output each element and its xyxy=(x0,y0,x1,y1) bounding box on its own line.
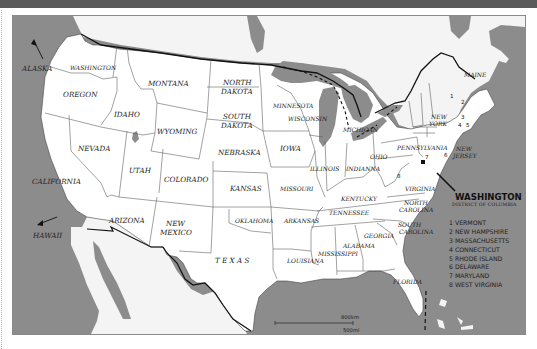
label-new-york-1: NEW xyxy=(430,113,448,120)
label-north-carolina-1: NORTH xyxy=(403,199,429,206)
page-edge-divider xyxy=(1,10,2,349)
header-bar xyxy=(0,0,537,8)
label-new-jersey-2: JERSEY xyxy=(451,152,478,160)
label-missouri: MISSOURI xyxy=(279,185,314,192)
label-alaska: ALASKA xyxy=(21,64,52,73)
label-wyoming: WYOMING xyxy=(157,127,198,136)
marker-5-rhode-island: 5 xyxy=(466,122,470,128)
legend-item-3: 3 MASSACHUSETTS xyxy=(449,237,509,244)
label-ohio: OHIO xyxy=(370,153,388,160)
label-kansas: KANSAS xyxy=(229,184,262,193)
label-montana: MONTANA xyxy=(147,79,189,88)
label-illinois: ILLINOIS xyxy=(309,165,339,172)
capital-title: WASHINGTON xyxy=(455,192,522,202)
label-iowa: IOWA xyxy=(279,144,301,153)
label-indiana: INDIANNA xyxy=(345,165,381,172)
label-colorado: COLORADO xyxy=(164,175,208,184)
label-north-dakota-1: NORTH xyxy=(222,78,252,87)
label-nevada: NEVADA xyxy=(77,144,110,153)
marker-4-connecticut: 4 xyxy=(458,122,462,128)
label-oklahoma: OKLAHOMA xyxy=(235,217,274,224)
label-utah: UTAH xyxy=(129,166,152,175)
map-canvas: ALASKA HAWAII WASHINGTON OREGON CALIFORN… xyxy=(13,16,525,334)
marker-2-new-hampshire: 2 xyxy=(461,99,465,105)
label-michigan: MICHIGAN xyxy=(342,126,379,133)
label-idaho: IDAHO xyxy=(113,110,140,119)
label-maine: MAINE xyxy=(463,71,487,78)
label-new-mexico-2: MEXICO xyxy=(159,228,192,237)
label-wisconsin: WISCONSIN xyxy=(288,115,328,122)
label-pennsylvania: PENNSYLVANIA xyxy=(396,144,448,151)
label-mississippi: MISSISSIPPI xyxy=(317,250,359,257)
label-georgia: GEORGIA xyxy=(364,232,395,239)
label-arkansas: ARKANSAS xyxy=(283,217,319,224)
label-alabama: ALABAMA xyxy=(342,242,376,249)
legend-item-6: 6 DELAWARE xyxy=(449,263,489,270)
label-south-dakota-1: SOUTH xyxy=(223,112,252,121)
label-louisiana: LOUISIANA xyxy=(286,257,324,264)
label-new-york-2: YORK xyxy=(429,120,447,127)
label-south-carolina-1: SOUTH xyxy=(398,221,422,228)
marker-8-west-virginia: 8 xyxy=(397,173,401,179)
label-virginia: VIRGINIA xyxy=(405,185,436,192)
capital-subtitle: DISTRICT OF COLUMBIA xyxy=(452,202,517,207)
label-new-jersey-1: NEW xyxy=(455,145,473,152)
legend-item-8: 8 WEST VIRGINIA xyxy=(449,281,503,288)
scale-km-label: 800km xyxy=(341,314,359,320)
marker-6-delaware: 6 xyxy=(444,152,448,158)
label-tennessee: TENNESSEE xyxy=(329,209,370,216)
label-hawaii: HAWAII xyxy=(32,231,62,240)
marker-7-maryland: 7 xyxy=(425,154,429,160)
legend-item-2: 2 NEW HAMPSHIRE xyxy=(449,228,508,235)
label-arizona: ARIZONA xyxy=(108,216,145,225)
label-florida: FLORIDA xyxy=(392,278,423,285)
dc-marker xyxy=(421,160,425,164)
label-california: CALIFORNIA xyxy=(32,177,81,186)
label-north-carolina-2: CAROLINA xyxy=(399,206,434,213)
legend-item-1: 1 VERMONT xyxy=(449,219,486,226)
label-south-carolina-2: CAROLINA xyxy=(399,228,434,235)
legend-item-4: 4 CONNECTICUT xyxy=(449,246,500,253)
label-new-mexico-1: NEW xyxy=(165,219,186,228)
us-states-map: ALASKA HAWAII WASHINGTON OREGON CALIFORN… xyxy=(12,15,526,335)
label-minnesota: MINNESOTA xyxy=(272,102,314,109)
legend-item-5: 5 RHODE ISLAND xyxy=(449,255,503,262)
label-kentucky: KENTUCKY xyxy=(340,195,378,202)
label-north-dakota-2: DAKOTA xyxy=(220,87,253,96)
label-texas: T E X A S xyxy=(215,256,249,265)
label-oregon: OREGON xyxy=(63,90,98,99)
marker-3-massachusetts: 3 xyxy=(461,114,465,120)
label-south-dakota-2: DAKOTA xyxy=(220,121,253,130)
scale-mi-label: 500mi xyxy=(343,327,359,333)
label-washington: WASHINGTON xyxy=(70,64,117,71)
legend-item-7: 7 MARYLAND xyxy=(449,272,490,279)
marker-1-vermont: 1 xyxy=(450,93,454,99)
label-nebraska: NEBRASKA xyxy=(217,148,261,157)
